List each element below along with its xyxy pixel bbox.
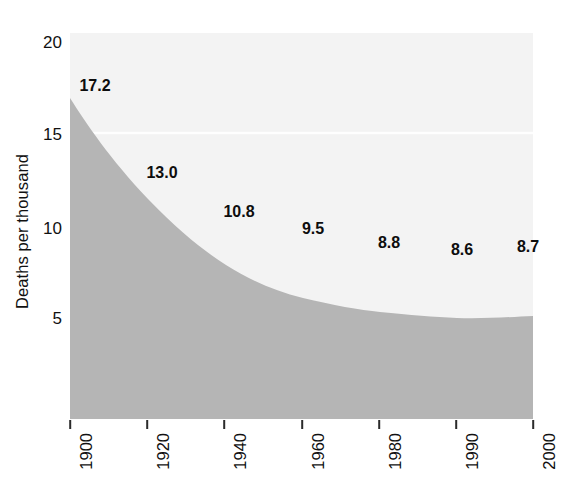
- x-tick-label-1900: 1900: [78, 433, 95, 484]
- area-fill-path: [70, 98, 533, 419]
- x-tick-label-2000-text: 2000: [541, 433, 558, 484]
- y-tick-label-15: 15: [18, 126, 62, 143]
- x-tick-label-1980-text: 1980: [387, 433, 404, 484]
- x-tick-mark-1960: [301, 420, 303, 429]
- x-tick-mark-1920: [146, 420, 148, 429]
- x-tick-label-1940: 1940: [232, 433, 249, 484]
- data-label-1960: 9.5: [302, 221, 324, 237]
- x-tick-label-1960: 1960: [310, 433, 327, 484]
- x-tick-label-1920-text: 1920: [155, 433, 172, 484]
- y-axis-tick-labels: 20 15 10 5: [0, 0, 62, 484]
- x-tick-mark-1940: [223, 420, 225, 429]
- x-tick-label-1940-text: 1940: [232, 433, 249, 484]
- data-label-1900: 17.2: [79, 78, 110, 94]
- data-label-1940: 10.8: [223, 204, 254, 220]
- x-tick-label-1900-text: 1900: [78, 433, 95, 484]
- death-rate-area-chart: Deaths per thousand 20 15 10 5 17.2 13.0…: [0, 0, 566, 484]
- data-label-1990: 8.6: [451, 242, 473, 258]
- y-tick-label-5: 5: [18, 310, 62, 327]
- x-tick-label-1990: 1990: [464, 433, 481, 484]
- x-tick-label-1990-text: 1990: [464, 433, 481, 484]
- data-label-1920: 13.0: [146, 165, 177, 181]
- x-tick-mark-1900: [69, 420, 71, 429]
- x-tick-mark-1990: [455, 420, 457, 429]
- x-tick-label-2000: 2000: [541, 433, 558, 484]
- x-tick-mark-2000: [532, 420, 534, 429]
- data-label-1980: 8.8: [378, 235, 400, 251]
- x-tick-label-1920: 1920: [155, 433, 172, 484]
- y-tick-label-20: 20: [18, 34, 62, 51]
- x-tick-mark-1980: [378, 420, 380, 429]
- x-tick-label-1980: 1980: [387, 433, 404, 484]
- x-tick-label-1960-text: 1960: [310, 433, 327, 484]
- data-label-2000: 8.7: [517, 239, 539, 255]
- y-tick-label-10: 10: [18, 220, 62, 237]
